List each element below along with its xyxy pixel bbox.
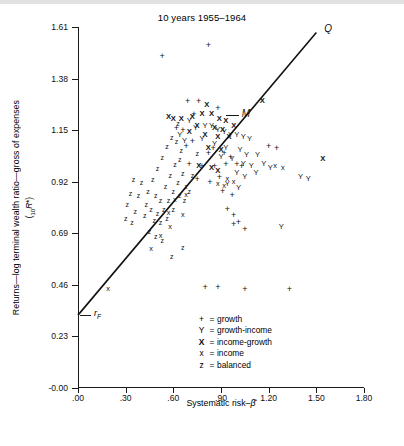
data-point-balanced: z	[160, 237, 164, 244]
legend-symbol: z	[196, 360, 207, 371]
data-point-growth: +	[207, 177, 212, 186]
data-point-balanced: z	[178, 192, 182, 199]
data-point-growth-income: Y	[244, 151, 249, 159]
annotation-M: M	[242, 108, 250, 119]
data-point-income: x	[216, 180, 220, 187]
data-point-balanced: z	[187, 187, 191, 194]
data-point-income: x	[149, 245, 153, 252]
data-point-balanced: z	[176, 178, 180, 185]
y-tick-label: 1.61	[51, 22, 68, 32]
data-point-growth-income: Y	[261, 160, 266, 168]
data-point-balanced: z	[176, 120, 180, 127]
data-point-balanced: z	[165, 214, 169, 221]
data-point-balanced: z	[159, 196, 163, 203]
figure-container: 10 years 1955–1964 Returns—log terminal …	[0, 0, 404, 446]
data-point-balanced: z	[140, 178, 144, 185]
data-point-balanced: z	[124, 214, 128, 221]
data-point-income: x	[281, 165, 285, 172]
data-point-income-growth: X	[204, 102, 209, 110]
data-point-balanced: z	[167, 196, 171, 203]
data-point-growth: +	[202, 283, 207, 292]
data-point-income: x	[181, 212, 185, 219]
legend-equals: =	[207, 325, 217, 336]
annotation-Q: Q	[324, 23, 332, 34]
data-point-balanced: z	[178, 156, 182, 163]
data-point-growth: +	[274, 144, 279, 153]
legend-item-growth-income: Y=growth-income	[196, 325, 272, 336]
annotation-rf: rF	[94, 308, 101, 320]
legend-item-growth: +=growth	[196, 314, 272, 325]
legend-equals: =	[207, 314, 217, 325]
legend: +=growthY=growth-incomeX=income-growthx=…	[196, 314, 272, 371]
legend-item-income-growth: X=income-growth	[196, 337, 272, 348]
data-point-growth: +	[195, 175, 200, 184]
data-point-growth-income: Y	[253, 169, 258, 177]
y-axis-title: Returns—log terminal wealth ratio—gross …	[9, 27, 23, 388]
data-point-growth: +	[190, 137, 195, 146]
data-point-growth-income: Y	[255, 151, 260, 159]
data-point-income-growth: X	[195, 122, 200, 130]
m-leader-line	[226, 115, 239, 116]
data-point-income-growth: X	[199, 111, 204, 119]
legend-symbol: X	[196, 337, 207, 348]
y-tick-label: 1.38	[51, 74, 68, 84]
data-point-balanced: z	[156, 165, 160, 172]
data-point-balanced: z	[145, 201, 149, 208]
data-point-growth-income: Y	[236, 185, 241, 193]
data-point-balanced: z	[162, 205, 166, 212]
data-point-growth-income: Y	[223, 144, 228, 152]
data-point-balanced: z	[180, 147, 184, 154]
y-axis-title-text: Returns—log terminal wealth ratio—gross …	[11, 100, 21, 315]
data-point-growth-income: Y	[241, 133, 246, 141]
legend-symbol: x	[196, 348, 207, 359]
data-point-balanced: z	[132, 176, 136, 183]
data-point-balanced: z	[170, 133, 174, 140]
data-point-income-growth: X	[166, 113, 171, 121]
data-point-income-growth: X	[226, 133, 231, 141]
data-point-income-growth: X	[212, 124, 217, 132]
legend-equals: =	[207, 337, 217, 348]
data-point-income-growth: X	[203, 131, 208, 139]
data-point-balanced: z	[164, 183, 168, 190]
data-point-growth-income: Y	[268, 164, 273, 172]
legend-symbol: +	[196, 314, 207, 325]
data-point-income-growth: X	[190, 113, 195, 121]
data-point-income: x	[173, 196, 177, 203]
y-tick-label: 1.15	[51, 125, 68, 135]
data-point-income-growth: X	[187, 129, 192, 137]
legend-label: income-growth	[217, 337, 272, 347]
data-point-income: x	[232, 178, 236, 185]
data-point-balanced: z	[137, 192, 141, 199]
data-point-balanced: z	[148, 228, 152, 235]
data-point-balanced: z	[181, 243, 185, 250]
data-point-growth: +	[223, 159, 228, 168]
legend-equals: =	[207, 348, 217, 359]
data-point-growth: +	[215, 283, 220, 292]
data-point-growth: +	[225, 204, 230, 213]
data-point-balanced: z	[146, 187, 150, 194]
y-tick-label: 0.23	[51, 331, 68, 341]
legend-label: income	[217, 348, 244, 358]
data-point-balanced: z	[160, 154, 164, 161]
data-point-balanced: z	[126, 201, 130, 208]
data-point-income-growth: X	[223, 117, 228, 125]
data-point-balanced: z	[151, 176, 155, 183]
data-point-balanced: z	[143, 212, 147, 219]
data-point-balanced: z	[154, 192, 158, 199]
data-point-balanced: z	[170, 252, 174, 259]
data-point-income-growth: X	[196, 162, 201, 170]
y-tick-label: 0.46	[51, 280, 68, 290]
data-point-income: x	[273, 162, 277, 169]
data-point-balanced: z	[183, 196, 187, 203]
data-point-balanced: z	[195, 149, 199, 156]
data-point-income-growth: X	[206, 144, 211, 152]
data-point-growth-income: Y	[182, 138, 187, 146]
data-point-growth-income: Y	[234, 169, 239, 177]
data-point-income-growth: X	[217, 115, 222, 123]
y-axis-subtitle-text: (10R*)	[25, 197, 36, 218]
data-point-income-growth: X	[215, 167, 220, 175]
legend-label: balanced	[217, 360, 251, 370]
data-point-income-growth: X	[171, 115, 176, 123]
y-tick-label: 0.92	[51, 177, 68, 187]
x-axis-title: Systematic risk–β̂	[78, 398, 364, 408]
